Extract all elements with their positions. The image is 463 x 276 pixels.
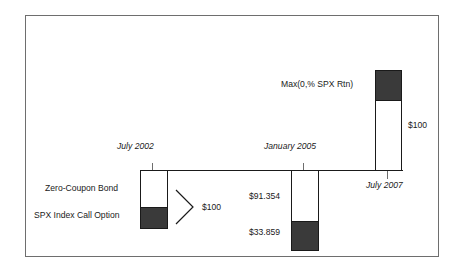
bar-2007-upside-segment [376,71,402,101]
principal-2007-value-label: $100 [408,121,427,130]
date-label-july-2002: July 2002 [117,142,154,151]
greater-than-chevron [176,190,193,224]
option-value-2005-label: $33.859 [249,228,280,237]
spx-index-call-option-label: SPX Index Call Option [34,211,120,220]
date-label-january-2005: January 2005 [264,142,316,151]
bar-2007-principal-segment [376,101,402,171]
initial-total-value-label: $100 [202,203,221,212]
bar-2005-option-segment [292,222,319,251]
bar-2002-bond-segment [141,171,168,208]
max-spx-return-label: Max(0,% SPX Rtn) [281,80,353,89]
diagram-canvas [0,0,463,276]
zero-coupon-bond-label: Zero-Coupon Bond [45,184,118,193]
bar-2005-bond-segment [292,171,319,222]
date-label-july-2007: July 2007 [366,181,403,190]
bar-2002-option-segment [141,208,168,229]
figure-screenshot: July 2002 January 2005 July 2007 Zero-Co… [0,0,463,276]
bond-value-2005-label: $91.354 [249,192,280,201]
